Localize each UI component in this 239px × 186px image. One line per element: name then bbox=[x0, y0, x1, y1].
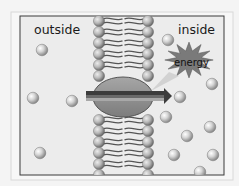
inside-label: inside bbox=[178, 22, 215, 37]
phospholipid-head bbox=[93, 147, 104, 158]
molecule bbox=[36, 44, 48, 56]
phospholipid-head bbox=[142, 48, 153, 59]
phospholipid-head bbox=[93, 48, 104, 59]
molecule bbox=[34, 147, 46, 159]
molecule bbox=[206, 78, 218, 90]
phospholipid-head bbox=[142, 158, 153, 169]
phospholipid-head bbox=[142, 147, 153, 158]
phospholipid-head bbox=[93, 59, 104, 70]
molecule bbox=[27, 92, 39, 104]
phospholipid-head bbox=[93, 125, 104, 136]
molecule bbox=[66, 95, 78, 107]
phospholipid-head bbox=[142, 136, 153, 147]
phospholipid-head bbox=[93, 15, 104, 26]
phospholipid-head bbox=[93, 37, 104, 48]
phospholipid-head bbox=[93, 114, 104, 125]
molecule bbox=[168, 149, 180, 161]
phospholipid-head bbox=[93, 70, 104, 81]
phospholipid-head bbox=[142, 125, 153, 136]
phospholipid-head bbox=[142, 59, 153, 70]
outside-label: outside bbox=[34, 22, 80, 37]
molecule bbox=[181, 130, 193, 142]
molecule bbox=[174, 91, 186, 103]
molecule bbox=[204, 121, 216, 133]
molecule bbox=[162, 34, 174, 46]
phospholipid-head bbox=[142, 70, 153, 81]
phospholipid-head bbox=[93, 136, 104, 147]
molecule bbox=[207, 149, 219, 161]
phospholipid-head bbox=[93, 158, 104, 169]
energy-label: energy bbox=[174, 57, 209, 68]
phospholipid-head bbox=[142, 26, 153, 37]
molecule bbox=[160, 111, 172, 123]
phospholipid-head bbox=[142, 15, 153, 26]
active-transport-diagram: outside inside energy bbox=[0, 0, 239, 186]
phospholipid-head bbox=[142, 37, 153, 48]
phospholipid-head bbox=[93, 26, 104, 37]
phospholipid-head bbox=[142, 114, 153, 125]
